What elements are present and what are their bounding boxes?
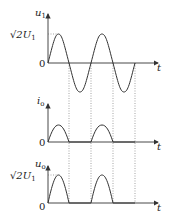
rectified-current-wave <box>48 125 135 142</box>
rectified-voltage-wave <box>48 175 135 203</box>
x-label: t <box>157 202 162 213</box>
origin-label: 0 <box>39 58 45 69</box>
peak-label: √2U1 <box>10 29 36 42</box>
y-label-io: io <box>37 95 44 108</box>
graph-uo: uo √2U1 0 t <box>10 158 162 213</box>
origin-label: 0 <box>39 201 45 212</box>
graph-io: io 0 t <box>37 95 162 152</box>
y-label-uo: uo <box>35 158 46 171</box>
peak-label: √2U1 <box>10 170 36 183</box>
period-guide-lines <box>69 63 135 203</box>
x-label: t <box>157 62 162 73</box>
y-label-u1: u1 <box>35 7 46 20</box>
origin-label: 0 <box>39 137 45 148</box>
x-label: t <box>157 141 162 152</box>
rectifier-waveform-diagram: u1 √2U1 0 t io 0 t uo √2U1 0 t <box>0 0 169 222</box>
graph-u1: u1 √2U1 0 t <box>10 7 162 92</box>
